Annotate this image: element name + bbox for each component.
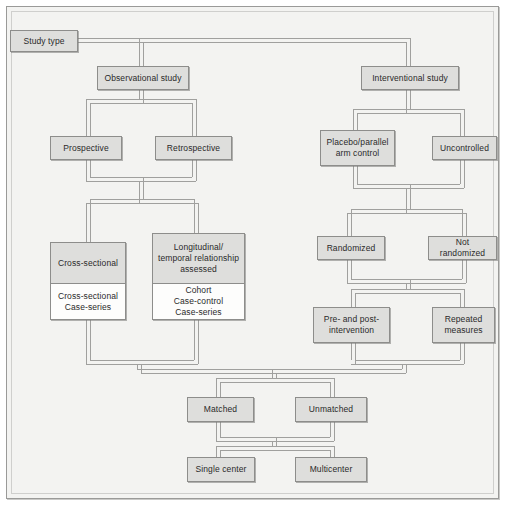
node-longitudinal-bottom-label: CohortCase-controlCase-series xyxy=(174,285,223,318)
node-repeated-measures-label: Repeatedmeasures xyxy=(444,314,482,336)
node-matched[interactable]: Matched xyxy=(187,397,254,422)
node-multicenter[interactable]: Multicenter xyxy=(295,457,367,482)
node-prospective-label: Prospective xyxy=(63,143,109,154)
node-prospective[interactable]: Prospective xyxy=(50,136,122,160)
node-not-randomized[interactable]: Not randomized xyxy=(428,236,497,260)
node-retrospective-label: Retrospective xyxy=(167,143,220,154)
node-uncontrolled-label: Uncontrolled xyxy=(440,143,489,154)
node-interventional-study[interactable]: Interventional study xyxy=(361,66,459,90)
node-randomized[interactable]: Randomized xyxy=(317,236,385,260)
node-pre-and-post-intervention[interactable]: Pre- and post-intervention xyxy=(313,307,390,343)
node-retrospective[interactable]: Retrospective xyxy=(155,136,232,160)
node-placebo-parallel-arm-control[interactable]: Placebo/parallelarm control xyxy=(320,130,395,166)
node-single-center[interactable]: Single center xyxy=(187,457,255,482)
node-unmatched[interactable]: Unmatched xyxy=(295,397,367,422)
node-study-type-label: Study type xyxy=(23,36,64,47)
node-longitudinal-top: Longitudinal/temporal relationshipassess… xyxy=(153,234,244,284)
node-cross-sectional-bottom-label: Cross-sectionalCase-series xyxy=(58,291,118,313)
node-single-center-label: Single center xyxy=(196,464,247,475)
node-observational-study-label: Observational study xyxy=(104,73,181,84)
node-study-type[interactable]: Study type xyxy=(10,30,78,52)
node-matched-label: Matched xyxy=(204,404,237,415)
node-repeated-measures[interactable]: Repeatedmeasures xyxy=(432,307,495,343)
node-unmatched-label: Unmatched xyxy=(309,404,353,415)
node-randomized-label: Randomized xyxy=(327,243,376,254)
node-cross-sectional-bottom: Cross-sectionalCase-series xyxy=(51,284,125,319)
node-longitudinal-top-label: Longitudinal/temporal relationshipassess… xyxy=(158,242,239,275)
node-cross-sectional-top-label: Cross-sectional xyxy=(58,258,118,269)
node-longitudinal[interactable]: Longitudinal/temporal relationshipassess… xyxy=(152,233,245,320)
node-longitudinal-bottom: CohortCase-controlCase-series xyxy=(153,284,244,319)
node-not-randomized-label: Not randomized xyxy=(432,237,493,259)
node-cross-sectional-top: Cross-sectional xyxy=(51,243,125,284)
node-placebo-parallel-arm-control-label: Placebo/parallelarm control xyxy=(326,137,388,159)
node-observational-study[interactable]: Observational study xyxy=(97,66,189,90)
node-multicenter-label: Multicenter xyxy=(310,464,353,475)
node-pre-and-post-intervention-label: Pre- and post-intervention xyxy=(324,314,379,336)
flowchart-canvas: Study type Observational study Intervent… xyxy=(0,0,506,510)
node-cross-sectional[interactable]: Cross-sectional Cross-sectionalCase-seri… xyxy=(50,242,126,320)
node-interventional-study-label: Interventional study xyxy=(372,73,448,84)
node-uncontrolled[interactable]: Uncontrolled xyxy=(432,136,497,160)
